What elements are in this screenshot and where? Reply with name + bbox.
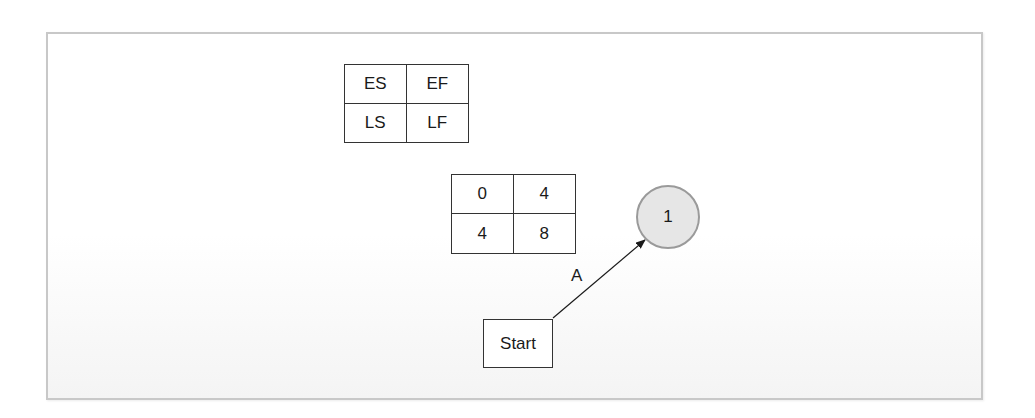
start-node: Start <box>483 319 553 368</box>
node-1: 1 <box>636 185 700 249</box>
edge-label-a: A <box>571 266 582 286</box>
